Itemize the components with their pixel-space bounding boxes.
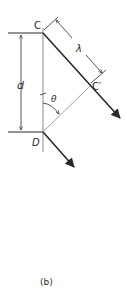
label-separation-d: d bbox=[17, 79, 25, 92]
theta-arc bbox=[43, 103, 59, 114]
label-d-point: D bbox=[32, 137, 40, 148]
lambda-extension-top bbox=[44, 17, 58, 30]
lambda-dimension-arrow-lower bbox=[86, 55, 102, 73]
figure-caption: (b) bbox=[40, 277, 53, 287]
lambda-dimension-arrow-upper bbox=[56, 20, 72, 38]
label-theta: θ bbox=[51, 94, 57, 104]
diffraction-geometry-diagram: C C′ D d λ θ (b) bbox=[0, 0, 127, 290]
label-lambda: λ bbox=[75, 43, 82, 54]
perpendicular-d-to-c-prime bbox=[43, 86, 90, 132]
label-c-prime: C′ bbox=[92, 81, 102, 92]
ray-from-d bbox=[43, 132, 74, 167]
label-c: C bbox=[34, 20, 41, 31]
